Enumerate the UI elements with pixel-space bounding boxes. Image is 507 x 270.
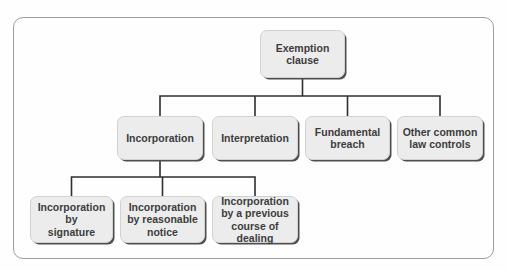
node-fundamental-breach: Fundamental breach — [305, 116, 390, 160]
node-incorporation-by-previous-course-of-dealing: Incorporation by a previous course of de… — [212, 196, 298, 243]
node-incorporation-by-reasonable-notice: Incorporation by reasonable notice — [120, 196, 205, 243]
diagram-canvas: Exemption clause Incorporation Interpret… — [0, 0, 507, 270]
node-exemption-clause: Exemption clause — [260, 30, 345, 78]
node-incorporation: Incorporation — [117, 116, 203, 160]
node-interpretation: Interpretation — [212, 116, 298, 160]
node-incorporation-by-signature: Incorporation by signature — [30, 196, 113, 243]
node-other-common-law-controls: Other common law controls — [397, 116, 483, 160]
